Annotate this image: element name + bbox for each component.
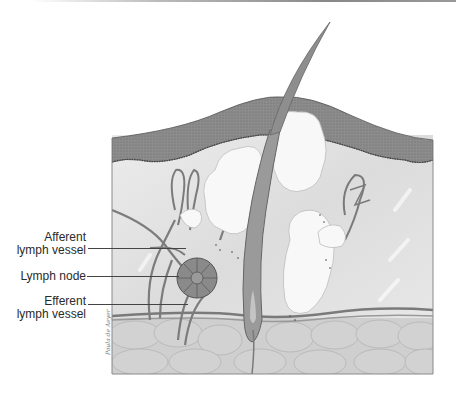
leader-efferent xyxy=(88,304,188,305)
lymph-node-shape xyxy=(177,258,217,298)
label-efferent-lymph-vessel: Efferent lymph vessel xyxy=(17,295,86,321)
label-afferent-lymph-vessel: Afferent lymph vessel xyxy=(17,231,86,257)
leader-afferent xyxy=(88,248,186,249)
label-node-line1: Lymph node xyxy=(20,270,86,283)
label-efferent-line2: lymph vessel xyxy=(17,308,86,321)
skin-illustration xyxy=(0,0,456,397)
leader-lymph-node xyxy=(87,276,179,277)
subcutaneous-fat xyxy=(109,318,445,376)
label-lymph-node: Lymph node xyxy=(20,270,86,283)
label-afferent-line2: lymph vessel xyxy=(17,244,86,257)
artist-signature: Paula de Aeyer xyxy=(104,309,111,355)
